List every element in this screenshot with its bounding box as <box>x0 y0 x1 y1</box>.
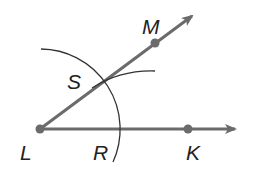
point-m <box>151 39 160 48</box>
label-l: L <box>20 141 32 164</box>
arc-center-r <box>92 71 155 88</box>
geometry-diagram: M S L R K <box>0 0 255 178</box>
label-m: M <box>142 15 160 38</box>
point-l <box>36 125 45 134</box>
label-k: K <box>186 141 201 164</box>
label-r: R <box>93 141 108 164</box>
ray-lm <box>40 16 192 129</box>
label-s: S <box>67 70 81 93</box>
point-k <box>184 125 193 134</box>
arc-center-l <box>41 49 120 162</box>
